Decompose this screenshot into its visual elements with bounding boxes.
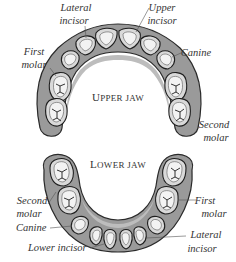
upper-lateral-incisor-label-line1: Lateral	[60, 2, 92, 13]
lower-lateral-incisor-left	[90, 227, 102, 245]
upper-jaw-title: UPPER JAW	[92, 91, 144, 103]
lower-second-molar-label-line1: Second	[17, 195, 48, 206]
upper-canine-label: Canine	[181, 47, 212, 58]
lower-first-molar-label-line2: molar	[201, 208, 227, 219]
lower-jaw: LOWER JAW	[43, 155, 192, 252]
lower-second-molar-label-line2: molar	[16, 208, 42, 219]
lower-first-molar-right	[156, 187, 179, 214]
lower-central-incisor-right	[120, 230, 132, 250]
lower-lateral-incisor-label-line1: Lateral	[190, 229, 222, 240]
lower-central-incisor-left	[104, 230, 116, 250]
upper-incisor-label-line2: incisor	[147, 15, 177, 26]
upper-incisor-label-line1: Upper	[149, 2, 177, 13]
lower-first-molar-label-line1: First	[194, 195, 217, 206]
lower-canine-label: Canine	[16, 222, 47, 233]
upper-first-molar-right	[165, 73, 187, 102]
upper-second-molar-left	[46, 99, 68, 127]
lower-second-molar-left	[50, 159, 73, 186]
dental-arch-diagram: UPPER JAW Lateral incisor Upper incisor …	[0, 0, 236, 262]
upper-second-molar-right	[169, 99, 191, 127]
lower-second-molar-right	[163, 159, 186, 186]
upper-first-molar-left	[49, 73, 71, 102]
lower-lateral-incisor-label-line2: incisor	[187, 243, 217, 254]
upper-second-molar-label-line1: Second	[199, 119, 230, 130]
upper-first-molar-label-line2: molar	[21, 59, 47, 70]
lower-incisor-label: Lower incisor	[27, 242, 88, 253]
upper-lateral-incisor-label-line2: incisor	[59, 15, 89, 26]
lower-jaw-title: LOWER JAW	[90, 158, 146, 170]
upper-jaw: UPPER JAW	[37, 24, 201, 136]
upper-second-molar-label-line2: molar	[203, 132, 229, 143]
lower-lateral-incisor-right	[134, 227, 146, 245]
upper-first-molar-label-line1: First	[23, 46, 46, 57]
lower-first-molar-left	[58, 187, 81, 214]
